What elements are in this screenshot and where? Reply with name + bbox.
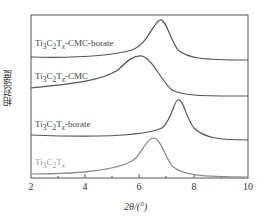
xrd-plot xyxy=(0,0,264,221)
x-tick: 8 xyxy=(192,181,197,192)
label-ti3c2tx: Ti3C2Tx xyxy=(35,157,65,170)
x-tick: 6 xyxy=(137,181,142,192)
x-tick: 4 xyxy=(83,181,88,192)
x-tick: 10 xyxy=(243,181,253,192)
label-borate: Ti3C2Tx-borate xyxy=(35,119,91,132)
y-axis-label: 相对强度 xyxy=(2,70,16,106)
label-cmc: Ti3C2Tx-CMC xyxy=(35,71,88,84)
x-tick: 2 xyxy=(29,181,34,192)
label-cmc-borate: Ti3C2Tx-CMC-borate xyxy=(35,38,114,51)
x-axis-label: 2θ/(°) xyxy=(124,201,147,212)
